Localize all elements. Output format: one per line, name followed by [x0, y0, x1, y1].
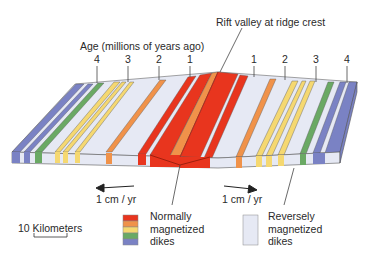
legend-normal-line3: dikes: [150, 235, 204, 248]
tick-left-4: 4: [91, 53, 103, 65]
rate-left-label: 1 cm / yr: [96, 193, 136, 205]
tick-right-4: 4: [341, 53, 353, 65]
tick-left-2: 2: [153, 53, 165, 65]
tick-right-1: 1: [248, 53, 260, 65]
rift-valley-label: Rift valley at ridge crest: [216, 16, 325, 28]
legend-reverse-line3: dikes: [268, 235, 322, 248]
legend-normal-line1: Normally: [150, 210, 204, 223]
axis-title: Age (millions of years ago): [80, 40, 204, 52]
tick-left-3: 3: [122, 53, 134, 65]
scale-label: 10 Kilometers: [18, 222, 82, 234]
legend-normal-line2: magnetized: [150, 223, 204, 236]
legend-reverse-line2: magnetized: [268, 223, 322, 236]
legend-normal-text: Normally magnetized dikes: [150, 210, 204, 248]
legend-reverse-text: Reversely magnetized dikes: [268, 210, 322, 248]
rate-right-label: 1 cm / yr: [222, 193, 262, 205]
legend-reverse-line1: Reversely: [268, 210, 322, 223]
tick-left-1: 1: [184, 53, 196, 65]
tick-right-3: 3: [310, 53, 322, 65]
tick-right-2: 2: [279, 53, 291, 65]
